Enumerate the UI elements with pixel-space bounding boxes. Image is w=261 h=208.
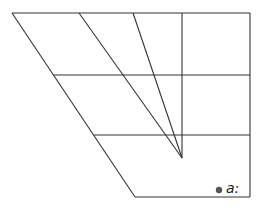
converging-line-2 bbox=[133, 13, 182, 158]
left-edge bbox=[12, 13, 135, 197]
vowel-label-a-long: a: bbox=[226, 180, 239, 196]
vowel-dot-a-long bbox=[216, 187, 222, 193]
vowel-diagram: a: bbox=[0, 0, 261, 208]
